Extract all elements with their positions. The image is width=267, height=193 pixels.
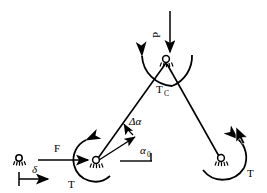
alpha0-label-subscript: 0 xyxy=(147,150,151,159)
apex-joint-pin xyxy=(163,56,170,63)
apex-torque-label: T xyxy=(156,83,163,95)
alpha0-label: α xyxy=(140,144,146,156)
force-label-F: F xyxy=(54,142,60,154)
apex-torque-label-subscript: C xyxy=(164,89,169,98)
reference-support-pin xyxy=(16,155,22,161)
load-label-P: P xyxy=(150,32,162,38)
right-torque-label: T xyxy=(247,167,254,179)
delta-label: δ xyxy=(32,163,38,175)
left-joint-pin xyxy=(93,157,100,164)
delta-alpha-label: Δα xyxy=(128,115,141,127)
left-torque-label: T xyxy=(68,178,75,190)
right-joint-pin xyxy=(218,155,225,162)
truss-diagram: P T C T F xyxy=(0,0,267,193)
figure-canvas: P T C T F xyxy=(0,0,267,193)
